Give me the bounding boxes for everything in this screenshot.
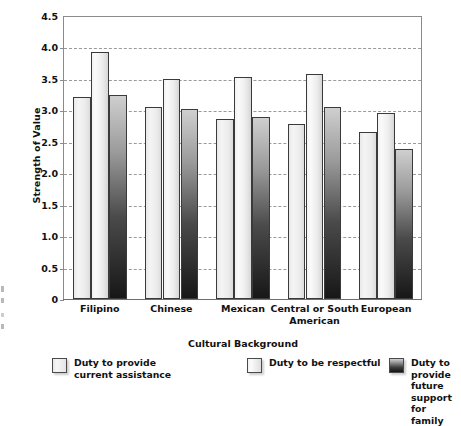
- bar: [109, 95, 127, 299]
- y-tick-label: 3.5: [30, 73, 58, 84]
- bar-group: [207, 17, 279, 299]
- bar-group: [350, 17, 422, 299]
- dark-gradient-swatch: [389, 358, 404, 373]
- legend-label: Duty to be respectful: [269, 357, 381, 369]
- bars-layer: [64, 17, 421, 299]
- light-gray-swatch: [247, 358, 262, 373]
- legend-item: Duty to be respectful: [247, 357, 381, 373]
- bar: [234, 77, 252, 299]
- y-tick-mark: [60, 237, 64, 238]
- y-tick-mark: [60, 48, 64, 49]
- bar: [252, 117, 270, 299]
- y-tick-mark: [60, 269, 64, 270]
- y-tick-mark: [60, 143, 64, 144]
- x-axis-tick-labels: FilipinoChineseMexicanCentral or SouthAm…: [64, 303, 422, 337]
- scan-artifact: [1, 313, 4, 317]
- bar: [359, 132, 377, 299]
- y-tick-mark: [60, 206, 64, 207]
- chart-legend: Duty to providecurrent assistanceDuty to…: [52, 357, 452, 397]
- y-tick-label: 1.0: [30, 231, 58, 242]
- scan-artifact: [1, 286, 4, 292]
- bar: [324, 107, 342, 299]
- y-tick-mark: [60, 300, 64, 301]
- bar-group: [136, 17, 208, 299]
- bar: [377, 113, 395, 299]
- bar: [181, 109, 199, 299]
- bar-group: [64, 17, 136, 299]
- legend-item: Duty to providecurrent assistance: [52, 357, 171, 380]
- bar: [145, 107, 163, 299]
- y-tick-mark: [60, 80, 64, 81]
- bar: [395, 149, 413, 299]
- y-tick-label: 3.0: [30, 105, 58, 116]
- y-tick-mark: [60, 111, 64, 112]
- bar: [163, 79, 181, 299]
- gridline: [64, 48, 421, 49]
- bar: [73, 97, 91, 300]
- legend-label: Duty to providecurrent assistance: [74, 357, 171, 380]
- plot-area: [64, 16, 422, 299]
- bar-group: [279, 17, 351, 299]
- y-tick-label: 4.0: [30, 42, 58, 53]
- x-axis-title: Cultural Background: [64, 338, 422, 349]
- y-tick-label: 2.0: [30, 168, 58, 179]
- y-tick-label: 1.5: [30, 199, 58, 210]
- scan-artifact: [1, 298, 4, 303]
- scan-artifact: [1, 324, 4, 329]
- bar: [288, 124, 306, 299]
- y-tick-label: 0.5: [30, 262, 58, 273]
- bar: [306, 74, 324, 299]
- legend-label: Duty to provide futuresupport for family: [411, 357, 452, 426]
- y-tick-label: 2.5: [30, 136, 58, 147]
- y-tick-mark: [60, 174, 64, 175]
- bar: [91, 52, 109, 299]
- x-axis-line: [63, 299, 422, 300]
- light-gray-swatch: [52, 358, 67, 373]
- legend-item: Duty to provide futuresupport for family: [389, 357, 452, 426]
- bar: [216, 119, 234, 299]
- y-tick-label: 4.5: [30, 11, 58, 22]
- x-tick-label: European: [338, 303, 434, 315]
- y-axis-tick-labels: 4.54.03.53.02.52.01.51.00.50: [30, 16, 58, 299]
